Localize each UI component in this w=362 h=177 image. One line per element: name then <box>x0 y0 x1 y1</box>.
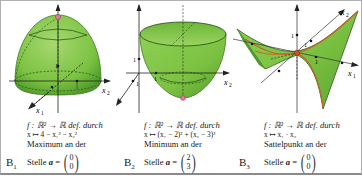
equals-sign: = <box>172 158 177 167</box>
left-paren-icon: ( <box>181 152 185 172</box>
point-variable: a <box>286 158 290 167</box>
right-paren-icon: ) <box>192 152 196 172</box>
panel-number: 2 <box>131 163 135 171</box>
function-definition: f : ℝ² → ℝ def. durch <box>144 121 220 130</box>
svg-text:x: x <box>35 106 40 115</box>
saddle-surface-graphic: 1 1 1 x 1 x 2 <box>231 1 362 116</box>
svg-text:x: x <box>340 8 345 17</box>
svg-text:1: 1 <box>41 110 44 116</box>
svg-text:1: 1 <box>136 81 139 87</box>
vector-x1: 2 <box>186 153 190 162</box>
panel-label-b3: B3 <box>239 156 250 171</box>
function-definition: f : ℝ² → ℝ def. durch <box>264 121 340 130</box>
svg-text:1: 1 <box>55 63 58 69</box>
caption-b3: f : ℝ² → ℝ def. durch x ↦ x₁ · x₂ Sattel… <box>264 121 340 172</box>
panel-label-b1: B1 <box>6 156 17 171</box>
panel-b1: 1 x 2 x 1 f : ℝ² → ℝ def. durch x ↦ 4 − … <box>1 1 119 173</box>
vector-x2: 3 <box>186 162 190 171</box>
stelle-label: Stelle <box>27 158 47 167</box>
stelle-label: Stelle <box>144 158 164 167</box>
svg-text:1: 1 <box>291 33 294 39</box>
svg-text:x: x <box>101 86 106 95</box>
point-location: Stelle a = ( 00 ) <box>27 152 103 172</box>
extremum-type: Minimum an der <box>144 140 220 149</box>
right-paren-icon: ) <box>312 152 316 172</box>
svg-text:1: 1 <box>154 76 157 82</box>
panel-number: 3 <box>246 163 250 171</box>
right-paren-icon: ) <box>75 152 79 172</box>
point-location: Stelle a = ( 00 ) <box>264 152 340 172</box>
svg-text:1: 1 <box>315 59 318 65</box>
panel-number: 1 <box>13 163 17 171</box>
svg-text:x: x <box>223 78 228 87</box>
caption-b2: f : ℝ² → ℝ def. durch x ↦ (x₁ − 2)² + (x… <box>144 121 220 172</box>
panel-b3: 1 1 1 x 1 x 2 f : ℝ² → ℝ def. durch x ↦ … <box>231 1 362 173</box>
bowl-surface-graphic: 1 1 1 x 2 <box>116 1 234 116</box>
vector-x2: 0 <box>306 162 310 171</box>
panel-b2: 1 1 1 x 2 f : ℝ² → ℝ def. durch x ↦ (x₁ … <box>116 1 234 173</box>
point-variable: a <box>166 158 170 167</box>
left-paren-icon: ( <box>301 152 305 172</box>
left-paren-icon: ( <box>64 152 68 172</box>
svg-text:2: 2 <box>107 90 110 96</box>
figure-frame: 1 x 2 x 1 f : ℝ² → ℝ def. durch x ↦ 4 − … <box>0 0 362 175</box>
equals-sign: = <box>55 158 60 167</box>
svg-text:1: 1 <box>304 42 307 48</box>
svg-text:x: x <box>347 69 352 78</box>
point-vector: ( 23 ) <box>179 152 198 172</box>
vector-x1: 0 <box>306 153 310 162</box>
svg-text:2: 2 <box>346 12 349 18</box>
caption-b1: f : ℝ² → ℝ def. durch x ↦ 4 − x₁² − x₂² … <box>27 121 103 172</box>
svg-text:1: 1 <box>353 73 356 79</box>
panel-label-b2: B2 <box>124 156 135 171</box>
point-vector: ( 00 ) <box>299 152 318 172</box>
point-variable: a <box>49 158 53 167</box>
vector-x1: 0 <box>69 153 73 162</box>
extremum-type: Sattelpunkt an der <box>264 140 340 149</box>
stelle-label: Stelle <box>264 158 284 167</box>
vector-x2: 0 <box>69 162 73 171</box>
dome-surface-graphic: 1 x 2 x 1 <box>1 1 119 116</box>
point-location: Stelle a = ( 23 ) <box>144 152 220 172</box>
svg-text:1: 1 <box>133 57 136 63</box>
equals-sign: = <box>292 158 297 167</box>
extremum-type: Maximum an der <box>27 140 103 149</box>
function-definition: f : ℝ² → ℝ def. durch <box>27 121 103 130</box>
point-vector: ( 00 ) <box>62 152 81 172</box>
